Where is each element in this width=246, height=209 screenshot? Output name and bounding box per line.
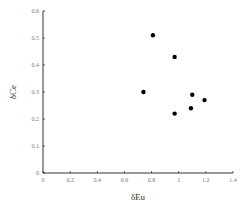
y-tick-label: 0 xyxy=(36,170,39,176)
data-point xyxy=(172,55,176,59)
x-tick-label: 1.2 xyxy=(202,177,210,183)
data-point xyxy=(172,111,176,115)
data-point xyxy=(151,33,155,37)
x-tick-label: 0.6 xyxy=(121,177,129,183)
y-tick-label: 0.2 xyxy=(32,116,40,122)
x-tick-label: 0.2 xyxy=(66,177,74,183)
axes: 00.20.40.60.811.21.400.10.20.30.40.50.6 xyxy=(32,8,237,183)
x-tick-label: 1.4 xyxy=(229,177,237,183)
data-points xyxy=(141,33,206,116)
y-tick-label: 0.5 xyxy=(32,35,40,41)
data-point xyxy=(141,90,145,94)
data-point xyxy=(190,93,194,97)
y-tick-label: 0.3 xyxy=(32,89,40,95)
y-tick-label: 0.6 xyxy=(32,8,40,14)
scatter-chart: 00.20.40.60.811.21.400.10.20.30.40.50.6 … xyxy=(0,0,246,209)
x-tick-label: 1 xyxy=(177,177,180,183)
x-axis-label: δEu xyxy=(131,192,146,202)
x-tick-label: 0.4 xyxy=(94,177,102,183)
x-tick-label: 0 xyxy=(42,177,45,183)
x-tick-label: 0.8 xyxy=(148,177,156,183)
data-point xyxy=(189,106,193,110)
y-tick-label: 0.1 xyxy=(32,143,40,149)
y-axis-label: δCe xyxy=(8,85,18,99)
y-tick-label: 0.4 xyxy=(32,62,40,68)
data-point xyxy=(202,98,206,102)
